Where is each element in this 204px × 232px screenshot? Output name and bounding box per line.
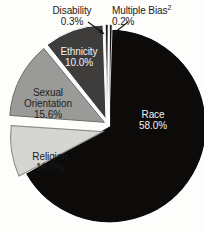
slice-label-race-value: 58.0% [127, 121, 179, 132]
slice-label-disability: Disability 0.3% [44, 6, 100, 28]
pie-chart: Disability 0.3% Multiple Bias2 0.2% Ethn… [0, 0, 204, 232]
slice-label-multiple-bias-value: 0.2% [112, 17, 200, 28]
slice-label-sexual-orientation: Sexual Orientation 15.6% [12, 88, 84, 120]
slice-label-ethnicity: Ethnicity 10.0% [51, 47, 107, 69]
slice-label-sexual-orientation-name-line2: Orientation [12, 99, 84, 110]
slice-label-disability-value: 0.3% [44, 17, 100, 28]
slice-label-religion-value: 16.0% [20, 163, 80, 174]
slice-label-race: Race 58.0% [127, 110, 179, 132]
slice-label-religion: Religion 16.0% [20, 152, 80, 174]
footnote-marker: 2 [167, 4, 171, 11]
slice-label-multiple-bias-text: Multiple Bias [112, 5, 167, 16]
slice-label-ethnicity-value: 10.0% [51, 58, 107, 69]
slice-label-multiple-bias: Multiple Bias2 0.2% [112, 6, 200, 28]
slice-label-sexual-orientation-value: 15.6% [12, 110, 84, 121]
